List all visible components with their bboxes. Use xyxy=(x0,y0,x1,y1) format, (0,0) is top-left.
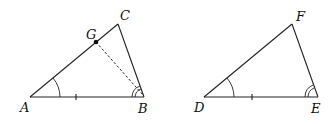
side-df xyxy=(204,24,292,97)
label-g: G xyxy=(86,27,96,42)
angle-e-arc-outer xyxy=(305,85,313,97)
angle-e-arc-inner xyxy=(308,88,314,97)
label-a: A xyxy=(19,100,29,115)
label-c: C xyxy=(120,8,130,23)
angle-d-arc xyxy=(227,78,234,97)
label-e: E xyxy=(310,101,321,116)
label-f: F xyxy=(295,9,306,24)
label-b: B xyxy=(137,101,148,116)
angle-b-arc-inner xyxy=(135,89,141,97)
angle-a-arc xyxy=(53,78,60,97)
congruent-triangles-diagram: A B C G D E F xyxy=(0,0,335,124)
triangle-def: D E F xyxy=(193,9,321,116)
side-fe xyxy=(292,24,318,97)
side-ac xyxy=(30,24,118,97)
segment-gb-dashed xyxy=(96,42,143,95)
side-cb xyxy=(118,24,144,97)
triangle-abc: A B C G xyxy=(19,8,148,116)
label-d: D xyxy=(193,100,205,115)
angle-b-arc-outer xyxy=(132,86,140,97)
